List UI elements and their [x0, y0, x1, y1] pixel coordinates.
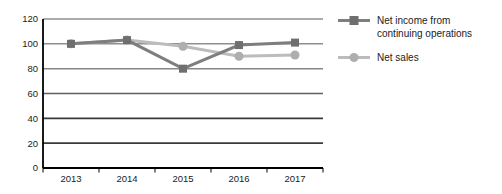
x-tick-label-2016: 2016: [228, 173, 249, 184]
data-point-net-income-from-continuing-operations-2017: [291, 39, 299, 47]
line-chart-figure: 02040608010012020132014201520162017 Net …: [0, 0, 502, 194]
y-tick-label-40: 40: [27, 113, 38, 124]
data-point-net-sales-2017: [291, 51, 300, 60]
y-tick-label-60: 60: [27, 88, 38, 99]
y-gridlines: [43, 19, 323, 143]
data-point-net-income-from-continuing-operations-2015: [179, 65, 187, 73]
x-tick-label-2015: 2015: [172, 173, 193, 184]
data-point-net-income-from-continuing-operations-2014: [123, 36, 131, 44]
y-tick-label-120: 120: [22, 13, 38, 24]
legend: Net income from continuing operations Ne…: [338, 14, 498, 75]
y-tick-label-80: 80: [27, 63, 38, 74]
legend-label-net-income-from-continuing-operations: Net income from continuing operations: [377, 14, 481, 40]
x-tick-label-2014: 2014: [116, 173, 137, 184]
data-point-net-income-from-continuing-operations-2013: [67, 40, 75, 48]
y-tick-label-100: 100: [22, 38, 38, 49]
legend-item-net-sales: Net sales: [338, 51, 498, 64]
y-tick-label-0: 0: [33, 162, 38, 173]
legend-marker-square-icon: [338, 15, 370, 26]
y-tick-label-20: 20: [27, 138, 38, 149]
series-net-sales: [67, 36, 300, 61]
legend-item-net-income-from-continuing-operations: Net income from continuing operations: [338, 14, 498, 40]
legend-circle-marker: [350, 53, 359, 62]
data-point-net-sales-2015: [179, 42, 188, 51]
x-tick-label-2013: 2013: [60, 173, 81, 184]
x-tick-label-2017: 2017: [284, 173, 305, 184]
y-axis-labels: 020406080100120: [22, 13, 38, 173]
data-point-net-income-from-continuing-operations-2016: [235, 41, 243, 49]
legend-label-net-sales: Net sales: [377, 51, 419, 64]
data-point-net-sales-2016: [235, 52, 244, 61]
legend-marker-circle-icon: [338, 52, 370, 63]
legend-square-marker: [350, 16, 359, 25]
x-axis-labels: 20132014201520162017: [60, 173, 305, 184]
